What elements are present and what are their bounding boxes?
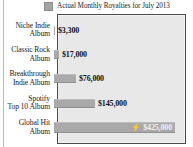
bar-zone: ⚡ $425,000 <box>54 117 193 139</box>
value-label-spotify-top-10-album: $145,000 <box>98 99 127 108</box>
bar-spotify-top-10-album <box>54 99 95 108</box>
bar-zone: $76,000 <box>54 68 193 90</box>
bar-row-breakthrough-indie-album: Breakthrough Indie Album $76,000 <box>0 68 193 90</box>
legend-swatch-icon <box>44 2 53 11</box>
bar-breakthrough-indie-album <box>54 74 76 83</box>
lightning-bolt-icon: ⚡ <box>132 123 141 132</box>
value-label-breakthrough-indie-album: $76,000 <box>79 74 104 83</box>
category-label-line2: Album <box>29 54 50 63</box>
bar-zone: $3,300 <box>54 19 193 41</box>
bar-niche-indie-album <box>54 26 55 35</box>
category-label-line2: Album <box>29 29 50 38</box>
value-label-niche-indie-album: $3,300 <box>58 26 79 35</box>
bar-row-niche-indie-album: Niche Indie Album $3,300 <box>0 19 193 41</box>
category-label-line2: Album <box>29 127 50 136</box>
bar-row-spotify-top-10-album: Spotify Top 10 Album $145,000 <box>0 92 193 114</box>
category-label-classic-rock-album: Classic Rock Album <box>0 46 54 63</box>
bar-zone: $145,000 <box>54 92 193 114</box>
category-label-global-hit-album: Global Hit Album <box>0 119 54 136</box>
bar-zone: $17,000 <box>54 44 193 66</box>
value-label-classic-rock-album: $17,000 <box>62 50 87 59</box>
category-label-line2: Indie Album <box>13 78 50 87</box>
bar-classic-rock-album <box>54 50 59 59</box>
value-label-global-hit-album: $425,000 <box>143 123 172 132</box>
bar-global-hit-album: ⚡ $425,000 <box>54 122 175 133</box>
category-label-niche-indie-album: Niche Indie Album <box>0 22 54 39</box>
category-label-breakthrough-indie-album: Breakthrough Indie Album <box>0 70 54 87</box>
bar-row-global-hit-album: Global Hit Album ⚡ $425,000 <box>0 117 193 139</box>
category-label-spotify-top-10-album: Spotify Top 10 Album <box>0 95 54 112</box>
bar-row-classic-rock-album: Classic Rock Album $17,000 <box>0 44 193 66</box>
category-label-line2: Top 10 Album <box>7 102 50 111</box>
chart-legend: Actual Monthly Royalties for July 2013 <box>44 1 170 12</box>
bar-rows: Niche Indie Album $3,300 Classic Rock Al… <box>0 14 193 144</box>
chart-figure: Actual Monthly Royalties for July 2013 N… <box>0 0 193 147</box>
legend-label: Actual Monthly Royalties for July 2013 <box>57 2 170 11</box>
